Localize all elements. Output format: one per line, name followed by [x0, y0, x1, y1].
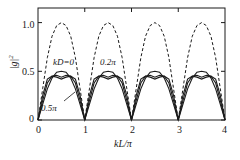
curve-kd-0-dashed-envelope- — [38, 23, 225, 120]
curve-kd-0 — [38, 71, 225, 120]
leader-line-0.5pi — [64, 92, 75, 101]
curve-0-5- — [38, 76, 225, 120]
plot-area — [0, 0, 240, 160]
curve-0-2- — [38, 75, 225, 120]
figure-container: |g|2 1.0 0.5 0 0 1 2 3 4 kL/π kD=0 0.2π … — [0, 0, 240, 160]
plot-frame — [38, 8, 225, 120]
axis-ticks — [38, 8, 225, 120]
data-curves — [38, 23, 225, 120]
